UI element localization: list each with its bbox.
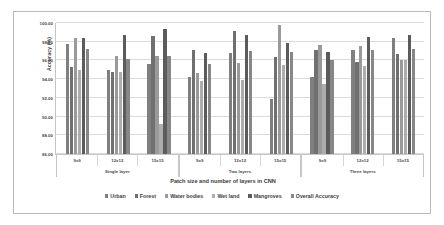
y-axis-tick-label: 90.00 [42, 114, 53, 119]
bar [412, 49, 415, 154]
legend-label: Urban [110, 193, 125, 199]
bar [326, 52, 329, 154]
bar [111, 72, 114, 154]
bar [82, 38, 85, 154]
plot-area-wrapper: Accuracy (%) 86.0088.0090.0092.0094.0096… [14, 12, 432, 162]
legend-label: Water bodies [170, 193, 203, 199]
x-axis-categories: 9x912x1215x15Single layer9x912x1215x15Tw… [56, 155, 424, 177]
bar [400, 60, 403, 154]
bar-series-container [57, 23, 424, 154]
x-axis-tick-label: 9x9 [302, 155, 342, 166]
legend-swatch-icon [212, 194, 215, 197]
bar [107, 70, 110, 154]
legend-swatch-icon [165, 194, 168, 197]
bar [163, 29, 166, 154]
x-axis-tick-label: 15x15 [137, 155, 177, 166]
bar [367, 37, 370, 154]
bar-cluster [220, 23, 261, 154]
bar [245, 35, 248, 154]
legend-label: Mangroves [254, 193, 282, 199]
bar-group-two-layers [179, 23, 301, 154]
bar-cluster [261, 23, 302, 154]
bar [241, 80, 244, 154]
bar-cluster [98, 23, 139, 154]
x-axis-tick-label: 9x9 [180, 155, 220, 166]
y-axis-tick-label: 88.00 [42, 133, 53, 138]
bar [151, 36, 154, 154]
legend-label: Overall Accuracy [296, 193, 339, 199]
bar [355, 62, 358, 154]
bar [286, 43, 289, 154]
legend-swatch-icon [135, 194, 138, 197]
legend-item-overall-accuracy[interactable]: Overall Accuracy [291, 193, 339, 199]
bar-cluster [139, 23, 180, 154]
x-axis-group-label: Single layer [57, 166, 178, 177]
x-axis-tick-label: 15x15 [383, 155, 423, 166]
bar [290, 52, 293, 154]
y-axis-tick-label: 86.00 [42, 152, 53, 157]
bar [310, 77, 313, 154]
legend-swatch-icon [105, 194, 108, 197]
bar [126, 59, 129, 154]
bar [314, 50, 317, 154]
chart-figure: Accuracy (%) 86.0088.0090.0092.0094.0096… [13, 11, 431, 214]
y-axis-tick-label: 96.00 [42, 58, 53, 63]
bar [155, 56, 158, 154]
legend-item-urban[interactable]: Urban [105, 193, 126, 199]
bar [192, 50, 195, 154]
x-axis-subcategory-row: 9x912x1215x15 [57, 155, 178, 166]
bar-cluster [383, 23, 424, 154]
bar [229, 53, 232, 154]
bar-cluster [342, 23, 383, 154]
bar [270, 99, 273, 154]
x-axis-tick-label: 9x9 [57, 155, 97, 166]
x-axis-tick-label: 12x12 [220, 155, 260, 166]
legend-swatch-icon [291, 194, 294, 197]
bar [371, 50, 374, 154]
bar [322, 84, 325, 154]
bar [274, 57, 277, 154]
bar [351, 50, 354, 154]
bar [78, 70, 81, 154]
x-axis-tick-label: 12x12 [343, 155, 383, 166]
legend-item-mangroves[interactable]: Mangroves [248, 193, 281, 199]
bar-cluster [57, 23, 98, 154]
bar [404, 60, 407, 154]
y-axis-tick-label: 94.00 [42, 77, 53, 82]
bar [66, 44, 69, 154]
bar [363, 66, 366, 154]
legend-swatch-icon [248, 194, 251, 197]
bar-group-single-layer [57, 23, 179, 154]
bar [167, 56, 170, 154]
bar [233, 31, 236, 154]
x-axis-group: 9x912x1215x15Single layer [56, 155, 179, 177]
bar-cluster [302, 23, 343, 154]
bar [359, 46, 362, 154]
y-axis-tick-label: 98.00 [42, 39, 53, 44]
bar [392, 38, 395, 154]
bar [200, 81, 203, 154]
bar [208, 64, 211, 154]
x-axis-subcategory-row: 9x912x1215x15 [302, 155, 423, 166]
bar-cluster [179, 23, 220, 154]
bar-group-three-layers [302, 23, 424, 154]
legend-item-water-bodies[interactable]: Water bodies [165, 193, 203, 199]
x-axis-tick-label: 15x15 [260, 155, 300, 166]
bar [282, 65, 285, 154]
x-axis-group: 9x912x1215x15Three layers [301, 155, 424, 177]
bar [74, 38, 77, 154]
x-axis-group-label: Three layers [302, 166, 423, 177]
x-axis-subcategory-row: 9x912x1215x15 [180, 155, 301, 166]
bar [396, 54, 399, 154]
bar [188, 77, 191, 154]
chart-legend: UrbanForestWater bodiesWet landMangroves… [14, 193, 430, 199]
legend-label: Forest [140, 193, 156, 199]
bar [70, 67, 73, 154]
bar [278, 25, 281, 154]
legend-item-wet-land[interactable]: Wet land [212, 193, 239, 199]
legend-item-forest[interactable]: Forest [135, 193, 156, 199]
bar [147, 64, 150, 154]
bar [318, 45, 321, 154]
x-axis-group-label: Two layers [180, 166, 301, 177]
legend-label: Wet land [217, 193, 239, 199]
